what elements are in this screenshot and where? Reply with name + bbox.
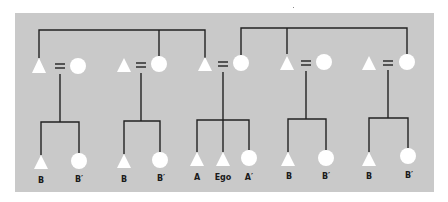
female-circle-icon (233, 55, 249, 71)
child-label: A (194, 173, 201, 182)
child-label: A′ (245, 173, 253, 182)
ego-label: Ego (215, 173, 232, 182)
child-label: B′ (75, 175, 83, 184)
child-label: B′ (157, 174, 165, 183)
female-circle-icon (316, 54, 332, 70)
child-label: B (38, 176, 44, 185)
child-label: B′ (322, 172, 330, 181)
female-circle-icon (400, 148, 416, 164)
female-circle-icon (399, 54, 415, 70)
child-label: B (286, 172, 292, 181)
female-circle-icon (241, 150, 257, 166)
child-label: B′ (405, 171, 413, 180)
female-circle-icon (151, 56, 167, 72)
female-circle-icon (152, 152, 168, 168)
female-circle-icon (318, 150, 334, 166)
child-label: B (366, 172, 372, 181)
child-label: B (121, 175, 127, 184)
female-circle-icon (71, 153, 87, 169)
female-circle-icon (70, 58, 86, 74)
kinship-diagram: B B′ B B′ A Ego A′ B B′ B B′ (0, 0, 448, 202)
speck (293, 7, 294, 8)
